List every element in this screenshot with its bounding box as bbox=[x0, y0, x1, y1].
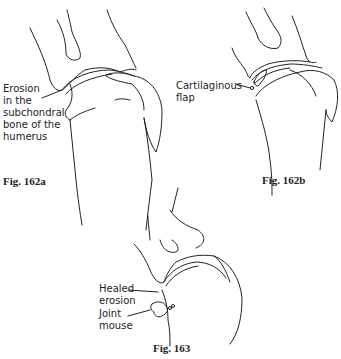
fig-162b-drawing bbox=[232, 8, 338, 195]
caption-fig-162b: Fig. 162b bbox=[262, 174, 305, 186]
caption-fig-163: Fig. 163 bbox=[153, 342, 190, 354]
annotation-cartilaginous-flap: Cartilaginous flap bbox=[176, 80, 242, 104]
caption-fig-162a: Fig. 162a bbox=[3, 175, 46, 187]
annotation-joint-mouse: Joint mouse bbox=[99, 308, 133, 332]
annotation-erosion-subchondral: Erosion in the subchondral bone of the h… bbox=[3, 83, 65, 143]
figure-page: Erosion in the subchondral bone of the h… bbox=[0, 0, 341, 359]
annotation-healed-erosion: Healed erosion bbox=[99, 283, 136, 307]
fig-163-drawing bbox=[128, 188, 242, 346]
